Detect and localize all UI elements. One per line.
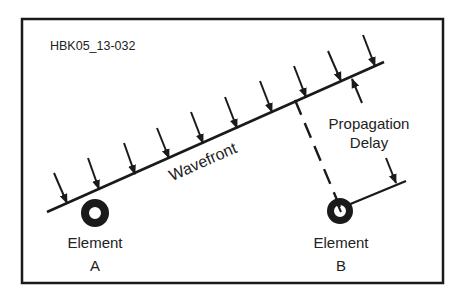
phased-array-wavefront-diagram: HBK05_13-032 Wavefront Propagation Delay…: [0, 0, 460, 298]
element-b-letter: B: [336, 257, 346, 274]
element-b-label: Element: [313, 234, 369, 251]
element-a-label: Element: [67, 234, 123, 251]
element-a-letter: A: [90, 257, 100, 274]
propagation-label: Propagation: [329, 115, 410, 132]
delay-label: Delay: [350, 134, 389, 151]
figure-id-label: HBK05_13-032: [50, 39, 136, 53]
element-b: [331, 202, 350, 221]
